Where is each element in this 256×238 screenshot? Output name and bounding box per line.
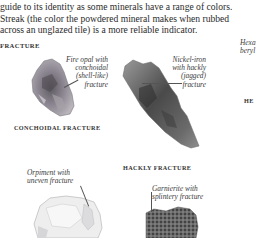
intro-line: across an unglazed tile) is a more relia…: [0, 24, 256, 36]
orpiment-caption: Orpiment with uneven fracture: [27, 169, 73, 185]
garnierite-leader-line: [151, 192, 152, 212]
section-title-fracture: FRACTURE: [0, 42, 40, 49]
hexagonal-beryl-caption: Hexa beryl: [240, 39, 256, 55]
conchoidal-fracture-label: CONCHOIDAL FRACTURE: [14, 124, 101, 131]
intro-paragraph: guide to its identity as some minerals h…: [0, 1, 256, 36]
right-edge-label-fragment: HE: [244, 97, 254, 104]
orpiment-specimen-image: [32, 194, 104, 238]
intro-line: Streak (the color the powdered mineral m…: [0, 13, 256, 25]
intro-line: guide to its identity as some minerals h…: [0, 1, 256, 13]
fire-opal-caption: Fire opal with conchoidal (shell-like) f…: [56, 56, 108, 89]
garnierite-caption: Garnierite with splintery fracture: [152, 185, 203, 201]
garnierite-specimen-image: [144, 205, 200, 238]
nickel-iron-leader-line: [142, 83, 182, 84]
nickel-iron-caption: Nickel-iron with hackly (jagged) fractur…: [150, 56, 206, 89]
hackly-fracture-label: HACKLY FRACTURE: [123, 164, 191, 171]
